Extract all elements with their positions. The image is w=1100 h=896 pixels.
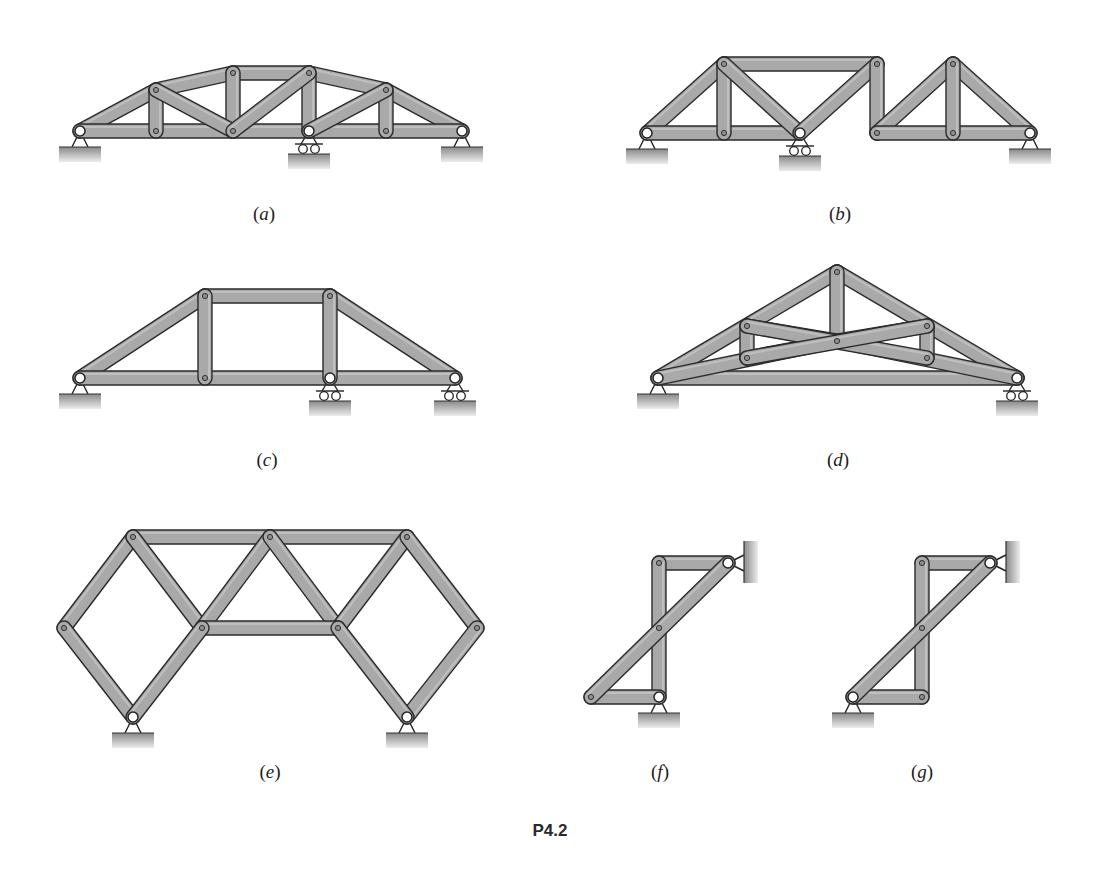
roller-wheel (311, 145, 320, 154)
roller-wheel (332, 392, 341, 401)
ground-hatch (434, 401, 476, 416)
bolt-joint-icon (950, 130, 955, 135)
truss-f (581, 541, 758, 728)
truss-member (198, 289, 212, 385)
subfigure-label-d: (d) (827, 449, 849, 471)
members (71, 63, 472, 141)
truss-member (198, 289, 337, 303)
ground-hatch (309, 401, 351, 416)
pin-joint-icon (642, 128, 652, 138)
ground-hatch (59, 394, 101, 409)
bolt-joint-icon (230, 128, 235, 133)
subfigure-label-g: (g) (911, 761, 933, 783)
bolt-joint-icon (306, 70, 311, 75)
members (637, 54, 1040, 143)
bolt-joint-icon (153, 87, 158, 92)
bolt-joint-icon (404, 534, 409, 539)
members (70, 286, 464, 387)
ground-hatch (637, 394, 679, 409)
pin-joint-icon (795, 128, 805, 138)
bolt-joint-icon (130, 534, 135, 539)
pin-joint-icon (402, 712, 412, 722)
bolt-joint-icon (744, 355, 749, 360)
bolt-joint-icon (721, 130, 726, 135)
truss-member (323, 289, 337, 385)
bolt-joint-icon (656, 560, 661, 565)
pin-joint-icon (75, 126, 85, 136)
trusses-layer (54, 54, 1051, 748)
ground-hatch (1009, 149, 1051, 164)
truss-member (73, 371, 462, 385)
truss-c (59, 286, 476, 416)
truss-b (626, 54, 1051, 171)
subfigure-label-a: (a) (253, 203, 275, 225)
bolt-joint-icon (335, 625, 340, 630)
roller-wheel (790, 147, 799, 156)
bolt-joint-icon (383, 87, 388, 92)
truss-a (59, 63, 483, 169)
truss-member (123, 618, 212, 727)
bolt-joint-icon (919, 625, 924, 630)
subfigure-label-b: (b) (829, 203, 851, 225)
bolt-joint-icon (834, 338, 839, 343)
bolt-joint-icon (383, 128, 388, 133)
bolt-joint-icon (924, 355, 929, 360)
ground-hatch (779, 156, 821, 171)
bolt-joint-icon (61, 625, 66, 630)
bolt-joint-icon (267, 534, 272, 539)
roller-wheel (802, 147, 811, 156)
truss-member (73, 124, 469, 138)
pin-joint-icon (128, 712, 138, 722)
pin-joint-icon (1012, 373, 1022, 383)
ground-hatch (996, 401, 1038, 416)
bolt-joint-icon (202, 293, 207, 298)
bolt-joint-icon (153, 128, 158, 133)
ground-hatch (832, 713, 874, 728)
bolt-joint-icon (874, 61, 879, 66)
ground-hatch (441, 147, 483, 162)
pin-joint-icon (985, 558, 995, 568)
truss-member (126, 530, 277, 544)
bolt-joint-icon (919, 560, 924, 565)
bolt-joint-icon (588, 694, 593, 699)
roller-wheel (457, 392, 466, 401)
roller-wheel (1019, 392, 1028, 401)
bolt-joint-icon (230, 70, 235, 75)
wall-hatch (1006, 541, 1020, 583)
pin-joint-icon (848, 692, 858, 702)
truss-member (717, 57, 884, 71)
truss-g (832, 541, 1020, 728)
truss-member (195, 621, 345, 635)
bolt-joint-icon (474, 625, 479, 630)
ground-hatch (288, 154, 330, 169)
subfigure-label-c: (c) (256, 449, 277, 471)
figure-caption: P4.2 (533, 821, 568, 841)
pin-joint-icon (325, 373, 335, 383)
ground-hatch (626, 149, 668, 164)
pin-joint-icon (450, 373, 460, 383)
bolt-joint-icon (327, 293, 332, 298)
truss-d (637, 262, 1038, 416)
pin-joint-icon (654, 692, 664, 702)
subfigure-label-f: (f) (651, 761, 669, 783)
pin-joint-icon (75, 373, 85, 383)
roller-wheel (445, 392, 454, 401)
pin-joint-icon (653, 373, 663, 383)
pin-joint-icon (723, 558, 733, 568)
roller-wheel (1007, 392, 1016, 401)
bolt-joint-icon (721, 61, 726, 66)
supports (112, 717, 428, 748)
pin-joint-icon (457, 126, 467, 136)
members (54, 527, 487, 727)
ground-hatch (638, 713, 680, 728)
truss-member (263, 530, 414, 544)
pin-joint-icon (304, 126, 314, 136)
ground-hatch (112, 733, 154, 748)
bolt-joint-icon (834, 269, 839, 274)
ground-hatch (59, 147, 101, 162)
bolt-joint-icon (202, 375, 207, 380)
roller-wheel (299, 145, 308, 154)
bolt-joint-icon (950, 61, 955, 66)
truss-figure-canvas (0, 0, 1100, 896)
bolt-joint-icon (744, 323, 749, 328)
